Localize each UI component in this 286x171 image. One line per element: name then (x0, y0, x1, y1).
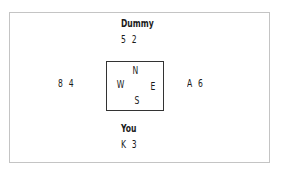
north-label: Dummy (121, 18, 154, 29)
compass-west: W (117, 79, 125, 90)
compass-east: E (150, 81, 155, 92)
north-cards: 5 2 (121, 34, 138, 45)
compass-north: N (133, 65, 139, 76)
south-cards: K 3 (121, 139, 138, 150)
south-label: You (121, 123, 136, 134)
west-cards: 8 4 (58, 78, 75, 89)
compass-south: S (134, 95, 139, 106)
east-cards: A 6 (187, 78, 205, 89)
compass-box: N W E S (106, 61, 164, 111)
